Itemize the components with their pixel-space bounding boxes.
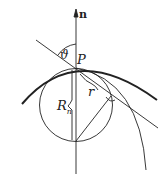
angle-label: ϑ [60,49,69,61]
curvature-diagram: n ϑ P r Rn [0,0,167,174]
normal-arrowhead-icon [74,9,78,17]
normal-label: n [79,9,87,20]
chord-line [76,96,111,141]
r-label: r [88,85,94,98]
oblique-section-curve [76,68,146,170]
point-label: P [77,53,86,66]
rn-main: R [57,98,67,113]
rn-sub: n [67,107,72,116]
diagram-svg [0,0,167,174]
rn-label: Rn [57,99,72,116]
inclined-line [36,40,158,128]
